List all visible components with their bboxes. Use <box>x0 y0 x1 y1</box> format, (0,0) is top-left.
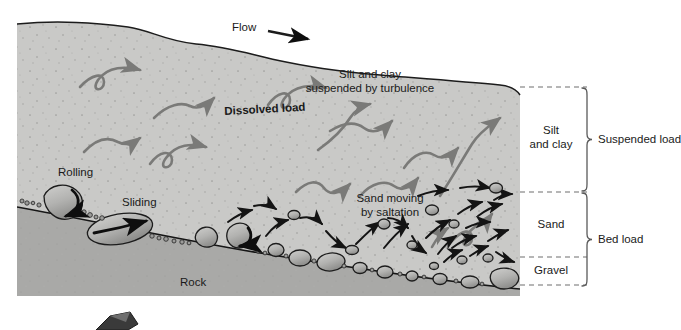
suspended-load-bracket <box>582 88 592 191</box>
suspension-label: Silt and clay suspended by turbulence <box>288 68 452 95</box>
flow-arrow <box>268 31 308 39</box>
legend-band-sand: Sand <box>520 218 582 232</box>
legend-band-silt-and-clay: Silt and clay <box>520 124 582 151</box>
rolling-label: Rolling <box>58 166 93 180</box>
legend-brackets <box>582 88 592 286</box>
rock-label: Rock <box>180 276 206 290</box>
bed-load-bracket <box>582 193 592 286</box>
legend-group-bed-load: Bed load <box>598 233 643 247</box>
sliding-label: Sliding <box>122 196 157 210</box>
gravel-clast <box>490 268 518 289</box>
saltation-label: Sand moving by saltation <box>334 192 446 219</box>
legend-band-gravel: Gravel <box>520 264 582 278</box>
page-bottom-partial-glyph <box>88 300 208 330</box>
legend-dashed-rules <box>520 87 587 285</box>
flow-label: Flow <box>232 21 256 35</box>
legend-group-suspended-load: Suspended load <box>598 133 681 147</box>
